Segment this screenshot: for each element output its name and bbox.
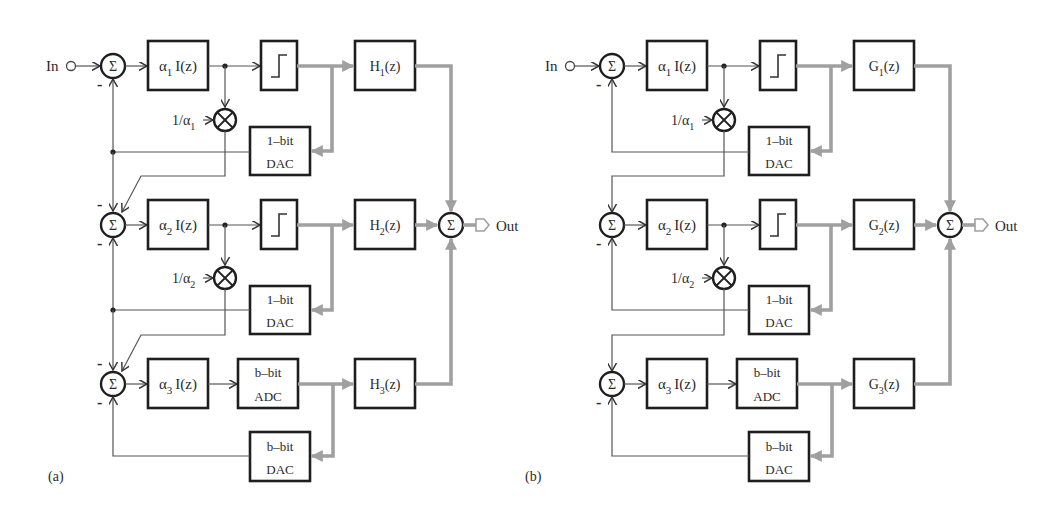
digital-bus	[415, 239, 451, 384]
stage-3: Σ - - α3I(z) b–bit ADC H3(z) b–bit DAC	[97, 239, 451, 481]
stage-1: Σ - α1I(z) G1(z) 1/α1 1–bit DAC	[596, 41, 950, 212]
dac-label-line2: DAC	[765, 315, 792, 330]
sum-symbol: Σ	[608, 218, 616, 233]
digital-bus	[811, 225, 831, 310]
minus-sign: -	[97, 355, 102, 372]
minus-sign: -	[97, 235, 102, 252]
dac-label-line2: DAC	[765, 156, 792, 171]
adc-label-line2: ADC	[753, 389, 780, 404]
dac-label-line2: DAC	[266, 156, 293, 171]
output-label: Out	[496, 218, 519, 234]
sum-symbol: Σ	[109, 59, 117, 74]
dac-label-line2: DAC	[765, 462, 792, 477]
digital-bus	[914, 239, 950, 384]
sum-symbol: Σ	[608, 59, 616, 74]
stage-3: Σ - α3I(z) b–bit ADC G3(z) b–bit DAC	[596, 239, 950, 481]
output-label: Out	[995, 218, 1018, 234]
panel-b-cascade-g-filters: In Σ - α1I(z) G1(z) 1/α1	[525, 41, 1018, 485]
dac-label-line1: 1–bit	[267, 292, 294, 307]
digital-bus	[914, 66, 950, 211]
digital-bus	[312, 66, 332, 151]
minus-sign: -	[596, 235, 601, 252]
adc-label-line2: ADC	[254, 389, 281, 404]
digital-bus	[811, 66, 831, 151]
stage-2: Σ - α2I(z) G2(z) 1/α2 1–bit DAC	[596, 200, 936, 371]
digital-bus	[312, 225, 332, 310]
adc-label-line1: b–bit	[255, 365, 282, 380]
sum-symbol: Σ	[608, 377, 616, 392]
input-terminal-icon	[67, 62, 76, 71]
input-terminal-icon	[566, 62, 575, 71]
input-label: In	[46, 58, 59, 74]
input-label: In	[545, 58, 558, 74]
dac-label-line1: 1–bit	[766, 292, 793, 307]
minus-sign: -	[596, 394, 601, 411]
minus-sign: -	[596, 76, 601, 93]
dac-label-line2: DAC	[266, 315, 293, 330]
digital-bus	[811, 384, 832, 456]
panel-label: (b)	[525, 469, 542, 485]
output-terminal-icon	[476, 219, 489, 231]
panel-a-cascade-h-filters: In Σ - α1I(z) H1(z) 1/α1	[46, 41, 519, 485]
dac-label-line1: b–bit	[267, 439, 294, 454]
scale-label: 1/α1	[671, 113, 694, 132]
stage-2: Σ - - α2I(z) H2(z) 1/α2 1–bit DA	[97, 196, 437, 371]
adc-label-line1: b–bit	[754, 365, 781, 380]
dac-label-line2: DAC	[266, 462, 293, 477]
digital-bus	[312, 384, 333, 456]
mash-modulator-diagram: In Σ - α1I(z) H1(z) 1/α1	[0, 0, 1064, 510]
output-terminal-icon	[975, 219, 988, 231]
scale-label: 1/α2	[172, 271, 195, 290]
dac-label-line1: b–bit	[766, 439, 793, 454]
sum-symbol: Σ	[109, 218, 117, 233]
minus-sign: -	[97, 394, 102, 411]
minus-sign: -	[97, 76, 102, 93]
sum-symbol: Σ	[946, 218, 954, 233]
dac-label-line1: 1–bit	[267, 133, 294, 148]
sum-symbol: Σ	[447, 218, 455, 233]
stage-1: Σ - α1I(z) H1(z) 1/α1 1–bit DAC	[97, 41, 451, 212]
scale-label: 1/α2	[671, 271, 694, 290]
dac-label-line1: 1–bit	[766, 133, 793, 148]
sum-symbol: Σ	[109, 377, 117, 392]
minus-sign: -	[97, 196, 102, 213]
scale-label: 1/α1	[172, 113, 195, 132]
panel-label: (a)	[48, 469, 64, 485]
digital-bus	[415, 66, 451, 211]
